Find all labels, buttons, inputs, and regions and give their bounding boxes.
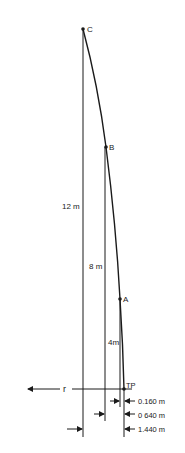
height-label-4m: 4m <box>108 338 119 347</box>
height-label-8m: 8 m <box>89 262 103 271</box>
offset-label-0640: 0 640 m <box>138 411 165 420</box>
curve-deflection-diagram: C B A TP 12 m 8 m 4m r 0.160 m 0 640 m 1… <box>0 0 185 453</box>
radial-axis-label: r <box>63 384 66 394</box>
offset-label-1440: 1.440 m <box>138 425 165 434</box>
label-b: B <box>109 143 114 152</box>
point-a <box>118 297 122 301</box>
point-b <box>104 145 108 149</box>
offset-label-0160: 0.160 m <box>138 397 165 406</box>
height-label-12m: 12 m <box>62 202 80 211</box>
label-c: C <box>87 25 93 34</box>
point-c <box>81 27 85 31</box>
deflection-curve <box>83 29 124 389</box>
label-a: A <box>123 295 129 304</box>
